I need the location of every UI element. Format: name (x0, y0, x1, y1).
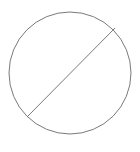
circle-slash-icon (0, 0, 140, 152)
diagram-canvas (0, 0, 140, 152)
diagonal-line (27, 28, 115, 117)
